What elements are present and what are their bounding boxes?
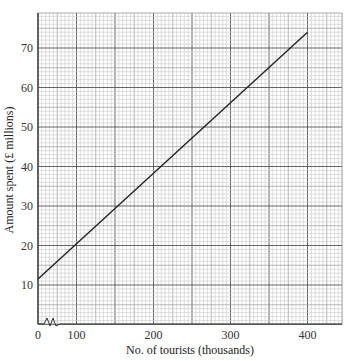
y-tick-label: 20 xyxy=(21,239,33,253)
x-axis-label: No. of tourists (thousands) xyxy=(126,343,254,357)
graph-paper-grid xyxy=(38,13,342,325)
x-axis-ticks: 0100200300400 xyxy=(35,328,317,342)
y-tick-label: 40 xyxy=(21,160,33,174)
line-chart: 10203040506070 0100200300400 No. of tour… xyxy=(0,0,363,361)
y-axis-ticks: 10203040506070 xyxy=(21,41,33,292)
x-tick-label: 400 xyxy=(299,328,317,342)
y-tick-label: 10 xyxy=(21,278,33,292)
y-tick-label: 50 xyxy=(21,120,33,134)
y-axis-label: Amount spent (£ millions) xyxy=(2,107,16,234)
y-tick-label: 60 xyxy=(21,81,33,95)
x-tick-label: 200 xyxy=(145,328,163,342)
y-tick-label: 70 xyxy=(21,41,33,55)
x-tick-label: 100 xyxy=(68,328,86,342)
x-tick-label: 300 xyxy=(222,328,240,342)
x-tick-label: 0 xyxy=(35,328,41,342)
y-tick-label: 30 xyxy=(21,199,33,213)
